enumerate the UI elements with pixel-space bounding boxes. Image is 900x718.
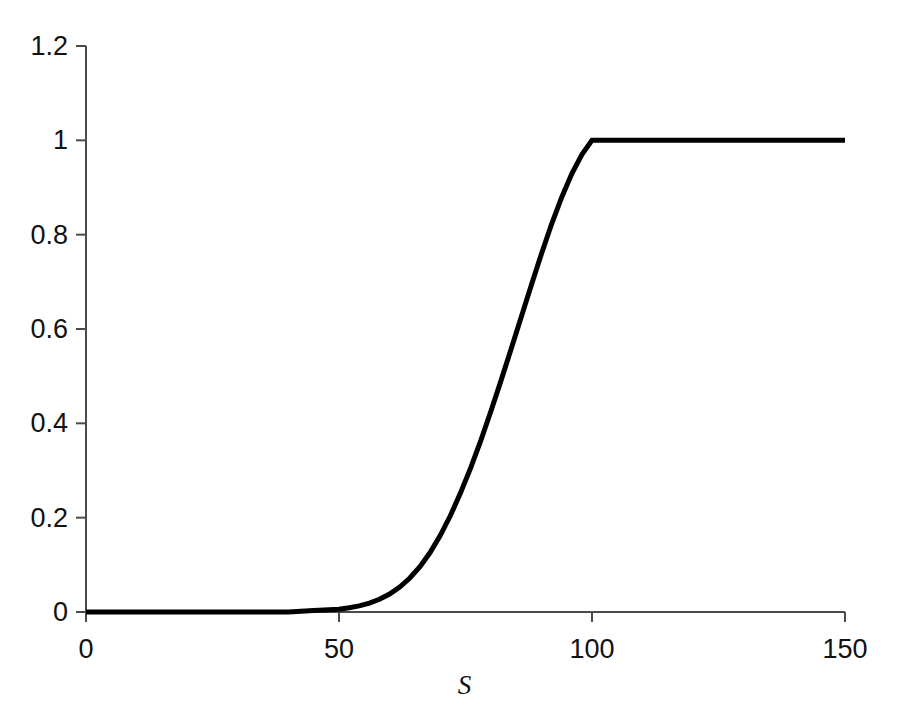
x-axis-tick-label: 50	[324, 636, 354, 663]
x-axis-label: S	[458, 672, 472, 699]
x-axis-tick-label: 100	[569, 636, 614, 663]
x-axis-tick-label: 150	[822, 636, 867, 663]
y-axis-tick-label: 0	[53, 599, 68, 626]
data-series-line	[86, 140, 845, 612]
y-axis-tick-label: 0.8	[30, 221, 68, 248]
y-axis-tick-label: 1	[53, 127, 68, 154]
y-axis-tick-label: 1.2	[30, 33, 68, 60]
y-axis-tick-label: 0.4	[30, 410, 68, 437]
y-axis-ticks	[76, 46, 86, 612]
x-axis-tick-label: 0	[78, 636, 93, 663]
y-axis-tick-label: 0.2	[30, 504, 68, 531]
y-axis-tick-label: 0.6	[30, 316, 68, 343]
chart-figure: 00.20.40.60.811.2 050100150 S	[0, 0, 900, 718]
plot-area	[0, 0, 900, 718]
